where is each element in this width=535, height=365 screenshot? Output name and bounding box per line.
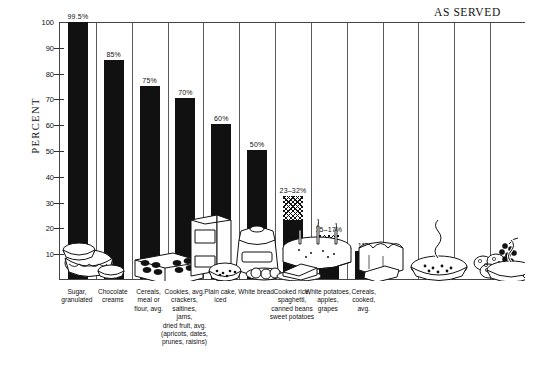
- chart-title: AS SERVED: [434, 6, 501, 18]
- bar-solid-segment: [68, 22, 88, 279]
- bar-cereals-cooked[interactable]: 11%: [355, 251, 375, 279]
- bar-solid-segment: [247, 150, 267, 279]
- bar-cookies-crackers-jams-dried-fruit[interactable]: 70%: [175, 98, 195, 279]
- bar-sugar-granulated[interactable]: 99.5%: [68, 22, 88, 279]
- bar-value-label: 50%: [250, 141, 265, 148]
- bar-solid-segment: [319, 240, 339, 279]
- column-separator: [203, 23, 204, 279]
- column-separator: [490, 23, 491, 279]
- column-separator: [132, 23, 133, 279]
- y-tick-label-100: 100: [28, 18, 54, 27]
- bar-cooked-rice-spaghetti-beans[interactable]: 23–32%: [283, 196, 303, 279]
- y-tick-label-60: 60: [28, 121, 54, 130]
- bar-white-bread[interactable]: 50%: [247, 150, 267, 279]
- bar-cereals-meal-flour[interactable]: 75%: [140, 86, 160, 280]
- column-separator: [383, 23, 384, 279]
- bar-solid-segment: [355, 251, 375, 279]
- bar-hatched-range-segment: [319, 235, 339, 240]
- column-separator: [418, 23, 419, 279]
- category-label-cereals-cooked: Cereals,cooked,avg.: [333, 288, 394, 313]
- column-separator: [275, 23, 276, 279]
- bar-value-label: 85%: [106, 51, 121, 58]
- y-tick-mark-90: [54, 48, 64, 49]
- plot-area: 99.5%85%75%70%60%50%23–32%15–17%11%: [59, 22, 525, 280]
- y-tick-mark-70: [54, 99, 64, 100]
- bar-value-label: 99.5%: [67, 13, 88, 20]
- y-tick-label-70: 70: [28, 95, 54, 104]
- y-tick-mark-10: [54, 254, 64, 255]
- bar-solid-segment: [211, 124, 231, 279]
- y-tick-label-80: 80: [28, 70, 54, 79]
- y-tick-label-40: 40: [28, 173, 54, 182]
- bar-value-label: 60%: [214, 115, 229, 122]
- bar-value-label: 11%: [358, 242, 372, 249]
- bar-chocolate-creams[interactable]: 85%: [104, 60, 124, 279]
- category-labels: Sugar,granulatedChocolatecreamsCereals,m…: [59, 288, 525, 364]
- y-tick-mark-50: [54, 151, 64, 152]
- chart-page: AS SERVED PERCENT 100908070605040302010 …: [0, 0, 535, 365]
- bar-solid-segment: [104, 60, 124, 279]
- bar-value-label: 70%: [178, 89, 193, 96]
- column-separator: [96, 23, 97, 279]
- bar-value-label: 75%: [142, 77, 157, 84]
- bar-solid-segment: [175, 98, 195, 279]
- y-tick-mark-80: [54, 74, 64, 75]
- y-tick-mark-60: [54, 125, 64, 126]
- y-tick-label-50: 50: [28, 147, 54, 156]
- bar-plain-cake-iced[interactable]: 60%: [211, 124, 231, 279]
- bar-solid-segment: [140, 86, 160, 280]
- column-separator: [311, 23, 312, 279]
- bar-solid-segment: [283, 220, 303, 279]
- bar-hatched-range-segment: [283, 196, 303, 219]
- bar-value-label: 23–32%: [280, 187, 307, 194]
- bar-value-label: 15–17%: [315, 226, 342, 233]
- y-tick-mark-20: [54, 228, 64, 229]
- y-tick-label-20: 20: [28, 224, 54, 233]
- y-tick-label-10: 10: [28, 250, 54, 259]
- y-tick-mark-30: [54, 203, 64, 204]
- column-separator: [454, 23, 455, 279]
- column-separator: [168, 23, 169, 279]
- y-tick-label-90: 90: [28, 44, 54, 53]
- y-tick-mark-40: [54, 177, 64, 178]
- column-separator: [239, 23, 240, 279]
- y-tick-label-30: 30: [28, 199, 54, 208]
- column-separator: [347, 23, 348, 279]
- y-axis-ticks: 100908070605040302010: [24, 0, 54, 285]
- bar-white-potatoes-apples-grapes[interactable]: 15–17%: [319, 235, 339, 279]
